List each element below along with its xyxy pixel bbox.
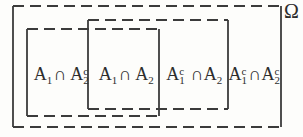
universe-label: Ω	[284, 1, 299, 21]
region-label-a1-complement-intersect-a2-complement: Ac1∩Ac2	[229, 64, 282, 85]
region-label-a1-complement-intersect-a2: Ac1 ∩A2	[166, 64, 224, 85]
set-partition-diagram: Ω A1∩ Ac2 A1∩ A2 Ac1 ∩A2 Ac1∩Ac2	[0, 0, 303, 137]
region-label-a1-intersect-a2-complement: A1∩ Ac2	[34, 64, 91, 85]
region-label-a1-intersect-a2: A1∩ A2	[99, 64, 156, 85]
